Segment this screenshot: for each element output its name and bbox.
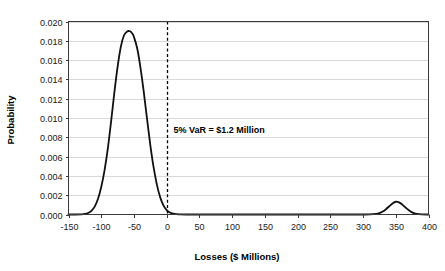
y-tick-label: 0.018 bbox=[40, 37, 63, 47]
x-axis-title: Losses ($ Millions) bbox=[195, 251, 280, 262]
x-tick-label: 150 bbox=[258, 222, 273, 232]
series-curve-loss-distribution bbox=[69, 31, 429, 215]
x-tick-label: 100 bbox=[225, 222, 240, 232]
y-axis-title: Probability bbox=[5, 95, 16, 145]
x-tick-label: -50 bbox=[128, 222, 141, 232]
y-axis-tick-labels: 0.0000.0020.0040.0060.0080.0100.0120.014… bbox=[40, 18, 63, 221]
x-tick-label: 200 bbox=[291, 222, 306, 232]
x-tick-label: -100 bbox=[92, 222, 110, 232]
gridlines bbox=[69, 23, 429, 196]
x-tick-label: 250 bbox=[323, 222, 338, 232]
loss-distribution-chart: 5% VaR = $1.2 Million 0.0000.0020.0040.0… bbox=[0, 0, 445, 271]
x-tick-label: -150 bbox=[60, 222, 78, 232]
y-tick-label: 0.000 bbox=[40, 211, 63, 221]
x-tick-label: 350 bbox=[389, 222, 404, 232]
var-annotation-label: 5% VaR = $1.2 Million bbox=[174, 125, 265, 135]
x-tick-label: 50 bbox=[194, 222, 204, 232]
x-tick-label: 0 bbox=[165, 222, 170, 232]
chart-container: 5% VaR = $1.2 Million 0.0000.0020.0040.0… bbox=[0, 0, 445, 271]
series-curves bbox=[69, 31, 429, 215]
y-tick-label: 0.004 bbox=[40, 172, 63, 182]
y-tick-label: 0.010 bbox=[40, 114, 63, 124]
y-tick-label: 0.002 bbox=[40, 191, 63, 201]
x-axis-tick-labels: -150-100-50050100150200250300350400 bbox=[60, 222, 437, 232]
y-tick-label: 0.020 bbox=[40, 18, 63, 28]
y-tick-label: 0.014 bbox=[40, 75, 63, 85]
y-tick-label: 0.012 bbox=[40, 95, 63, 105]
y-tick-label: 0.016 bbox=[40, 56, 63, 66]
y-tick-label: 0.008 bbox=[40, 133, 63, 143]
x-tick-label: 400 bbox=[422, 222, 437, 232]
y-tick-label: 0.006 bbox=[40, 153, 63, 163]
x-tick-label: 300 bbox=[356, 222, 371, 232]
